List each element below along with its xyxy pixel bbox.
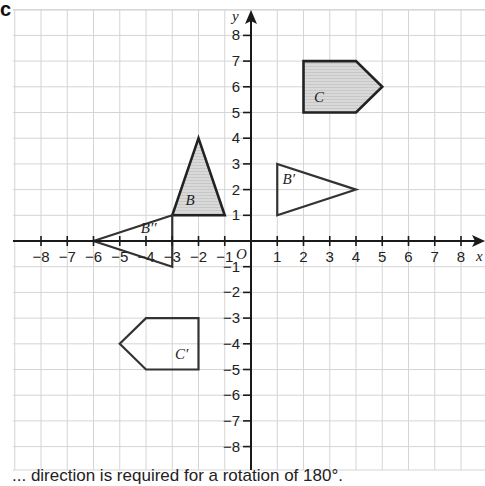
shape-label: C′	[175, 346, 189, 362]
x-tick-label: 6	[404, 248, 412, 265]
x-tick-label: −2	[190, 248, 207, 265]
x-tick-label: −3	[164, 248, 181, 265]
y-tick-label: 6	[232, 78, 240, 95]
x-tick-label: 7	[431, 248, 439, 265]
x-tick-label: −4	[137, 248, 154, 265]
y-tick-label: −8	[223, 438, 240, 455]
x-tick-label: 4	[352, 248, 360, 265]
y-tick-label: −4	[223, 335, 240, 352]
grid-lines	[13, 10, 485, 470]
y-tick-label: −7	[223, 412, 240, 429]
y-tick-label: 3	[232, 155, 240, 172]
axes	[13, 10, 485, 470]
shape-label: B′′	[141, 220, 157, 236]
y-tick-label: 2	[232, 181, 240, 198]
x-tick-label: 5	[378, 248, 386, 265]
y-axis-label: y	[230, 8, 239, 24]
x-axis-label: x	[475, 248, 483, 264]
x-tick-label: −8	[32, 248, 49, 265]
shape-label: C	[314, 89, 325, 105]
shape-label: B′	[283, 171, 296, 187]
y-tick-label: −5	[223, 361, 240, 378]
y-tick-label: 4	[232, 129, 240, 146]
x-tick-label: −6	[85, 248, 102, 265]
labels-layer: BB′B′′CC′−8−7−6−5−4−3−2−1123456788765432…	[32, 8, 483, 455]
y-tick-label: 7	[232, 52, 240, 69]
x-tick-label: 8	[457, 248, 465, 265]
y-tick-label: 5	[232, 104, 240, 121]
coordinate-diagram: c BB′B′′CC′−8−7−6−5−4−3−2−11234567887654…	[0, 0, 485, 486]
x-tick-label: −7	[59, 248, 76, 265]
x-tick-label: 3	[326, 248, 334, 265]
x-tick-label: −5	[111, 248, 128, 265]
y-tick-label: −3	[223, 309, 240, 326]
y-tick-label: 8	[232, 26, 240, 43]
coordinate-plane: BB′B′′CC′−8−7−6−5−4−3−2−1123456788765432…	[0, 0, 485, 486]
shape-label: B	[185, 192, 194, 208]
shape-b	[172, 138, 225, 215]
origin-label: O	[236, 246, 247, 262]
y-tick-label: −6	[223, 386, 240, 403]
x-tick-label: 2	[299, 248, 307, 265]
y-tick-label: −2	[223, 283, 240, 300]
caption-text: ... direction is required for a rotation…	[12, 466, 343, 486]
x-tick-label: 1	[273, 248, 281, 265]
y-tick-label: 1	[232, 206, 240, 223]
